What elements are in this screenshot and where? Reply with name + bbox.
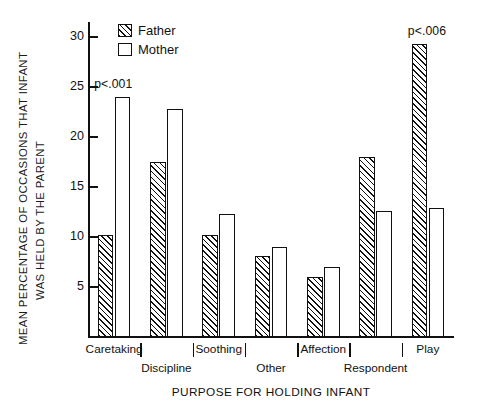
legend: FatherMother xyxy=(118,22,178,60)
x-axis-label-play: Play xyxy=(416,342,439,356)
legend-swatch-mother xyxy=(118,43,132,56)
x-axis-separator xyxy=(297,343,298,357)
legend-swatch-father xyxy=(118,24,132,37)
bar-father-play xyxy=(412,44,428,337)
x-axis-label-affection: Affection xyxy=(300,342,346,356)
bar-father-soothing xyxy=(202,235,218,337)
y-axis-tick-label: 20 xyxy=(56,129,84,143)
bar-mother-caretaking xyxy=(115,97,131,337)
x-axis-group-labels: CaretakingDisciplineSoothingOtherAffecti… xyxy=(88,339,454,385)
bar-mother-discipline xyxy=(167,109,183,337)
y-axis-tick-label: 5 xyxy=(56,279,84,293)
bar-father-caretaking xyxy=(98,235,114,337)
x-axis-label-other: Other xyxy=(256,361,286,375)
x-axis-label-caretaking: Caretaking xyxy=(86,342,143,356)
y-axis-tick-label: 25 xyxy=(56,79,84,93)
x-axis-label-soothing: Soothing xyxy=(195,342,242,356)
y-axis-tick-label: 30 xyxy=(56,29,84,43)
bar-mother-respondent xyxy=(376,211,392,337)
bar-father-other xyxy=(255,256,271,337)
x-axis-separator xyxy=(245,343,246,357)
y-axis-title-line-2: WAS HELD BY THE PARENT xyxy=(34,141,46,300)
y-axis-tick-label: 10 xyxy=(56,229,84,243)
legend-item-father: Father xyxy=(118,22,178,39)
bar-father-respondent xyxy=(359,157,375,337)
legend-label-father: Father xyxy=(138,23,176,38)
x-axis-label-respondent: Respondent xyxy=(344,361,408,375)
y-axis-title: MEAN PERCENTAGE OF OCCASIONS THAT INFANT… xyxy=(0,0,58,360)
bar-mother-affection xyxy=(324,267,340,337)
bar-mother-play xyxy=(429,208,445,337)
x-axis-label-discipline: Discipline xyxy=(141,361,191,375)
x-axis-separator xyxy=(402,343,403,357)
plot-area xyxy=(88,22,454,337)
x-axis-separator xyxy=(193,343,194,357)
p-value-annotation: p<.006 xyxy=(408,24,446,38)
bar-father-affection xyxy=(307,277,323,337)
legend-item-mother: Mother xyxy=(118,41,178,58)
x-axis-separator xyxy=(140,343,141,357)
bar-mother-soothing xyxy=(219,214,235,337)
bar-chart-figure: MEAN PERCENTAGE OF OCCASIONS THAT INFANT… xyxy=(0,0,488,419)
legend-label-mother: Mother xyxy=(138,42,178,57)
x-axis-title: PURPOSE FOR HOLDING INFANT xyxy=(88,385,454,399)
y-axis-tick-label: 15 xyxy=(56,179,84,193)
y-axis-title-line-1: MEAN PERCENTAGE OF OCCASIONS THAT INFANT xyxy=(17,52,29,345)
bar-father-discipline xyxy=(150,162,166,337)
bars-layer xyxy=(88,22,454,337)
x-axis-separator xyxy=(349,343,350,357)
bar-mother-other xyxy=(272,247,288,337)
p-value-annotation: p<.001 xyxy=(94,77,132,91)
